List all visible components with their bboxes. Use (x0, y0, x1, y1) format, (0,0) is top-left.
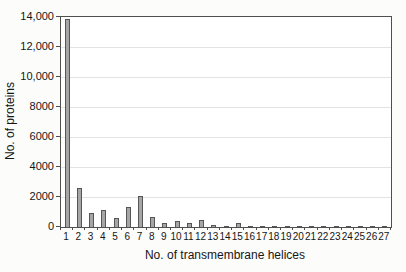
y-tick-label: 4000 (0, 160, 54, 172)
plot-area (60, 16, 392, 228)
x-axis-tick (146, 227, 147, 230)
x-axis-tick (366, 227, 367, 230)
bar-helices-16 (248, 226, 253, 227)
x-axis-tick (60, 227, 61, 230)
bar-helices-23 (334, 226, 339, 227)
x-axis-tick (133, 227, 134, 230)
bar-helices-12 (199, 220, 204, 227)
x-axis-tick (182, 227, 183, 230)
x-axis-tick (243, 227, 244, 230)
x-axis-tick (268, 227, 269, 230)
x-axis-tick (317, 227, 318, 230)
x-axis-tick (378, 227, 379, 230)
bar-helices-9 (162, 223, 167, 227)
x-axis-tick (97, 227, 98, 230)
y-axis-tick (56, 16, 60, 17)
bar-chart-figure: No. of proteins No. of transmembrane hel… (0, 0, 406, 272)
gridline (61, 47, 391, 48)
bar-helices-5 (114, 218, 119, 227)
bar-helices-10 (175, 221, 180, 227)
x-axis-tick (84, 227, 85, 230)
y-tick-label: 8000 (0, 100, 54, 112)
y-tick-label: 12,000 (0, 40, 54, 52)
x-axis-tick (329, 227, 330, 230)
y-tick-label: 6000 (0, 130, 54, 142)
bar-helices-4 (101, 210, 106, 227)
y-tick-label: 0 (0, 220, 54, 232)
y-tick-label: 14,000 (0, 10, 54, 22)
bar-helices-26 (370, 226, 375, 227)
y-axis-tick (56, 196, 60, 197)
bar-helices-15 (236, 223, 241, 227)
bar-helices-14 (224, 226, 229, 228)
bar-helices-19 (285, 226, 290, 227)
x-axis-tick (256, 227, 257, 230)
bar-helices-3 (89, 213, 94, 227)
bar-helices-8 (150, 217, 155, 227)
x-axis-tick (170, 227, 171, 230)
bar-helices-2 (77, 188, 82, 227)
bar-helices-22 (321, 226, 326, 227)
gridline (61, 137, 391, 138)
x-axis-tick (280, 227, 281, 230)
y-axis-tick (56, 136, 60, 137)
bar-helices-20 (297, 226, 302, 227)
gridline (61, 167, 391, 168)
bar-helices-1 (65, 19, 70, 228)
bar-helices-27 (382, 226, 387, 227)
gridline (61, 107, 391, 108)
x-axis-tick (121, 227, 122, 230)
y-axis-tick (56, 166, 60, 167)
x-axis-title: No. of transmembrane helices (60, 248, 390, 262)
y-tick-label: 2000 (0, 190, 54, 202)
gridline (61, 77, 391, 78)
x-axis-tick (207, 227, 208, 230)
y-tick-label: 10,000 (0, 70, 54, 82)
x-axis-tick (231, 227, 232, 230)
bar-helices-13 (211, 225, 216, 227)
x-axis-tick (341, 227, 342, 230)
x-axis-tick (390, 227, 391, 230)
bar-helices-25 (358, 226, 363, 227)
y-axis-tick (56, 76, 60, 77)
bar-helices-6 (126, 207, 131, 227)
x-axis-tick (353, 227, 354, 230)
bar-helices-7 (138, 196, 143, 227)
x-axis-tick (219, 227, 220, 230)
x-axis-tick (109, 227, 110, 230)
y-axis-tick (56, 46, 60, 47)
bar-helices-21 (309, 226, 314, 227)
bar-helices-11 (187, 223, 192, 228)
gridline (61, 197, 391, 198)
x-axis-tick (194, 227, 195, 230)
bar-helices-24 (346, 226, 351, 227)
y-axis-tick (56, 106, 60, 107)
bar-helices-17 (260, 226, 265, 227)
x-axis-tick (72, 227, 73, 230)
bar-helices-18 (272, 226, 277, 227)
x-axis-tick (158, 227, 159, 230)
x-axis-tick (304, 227, 305, 230)
x-axis-tick (292, 227, 293, 230)
x-tick-label: 27 (369, 231, 399, 242)
